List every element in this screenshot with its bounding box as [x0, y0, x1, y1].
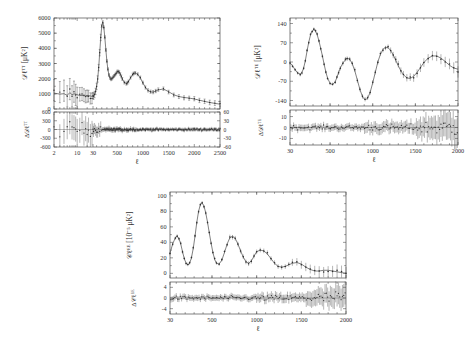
ee-main-frame — [170, 192, 346, 278]
chart-panel-te: -140-7007014030500100015002000-10010𝒟ℓᵀᴱ… — [246, 6, 468, 171]
tt-residual-ylabel: Δ𝒟ℓᵀᵀ — [23, 120, 30, 138]
axis-text: 300 — [42, 118, 51, 124]
axis-text: -600 — [40, 144, 50, 150]
te-xlabel: ℓ — [372, 155, 376, 164]
axis-text: -70 — [278, 77, 286, 84]
chart-panel-ee: 02040608010030500100015002000-404𝒞ℓᴱᴱ [1… — [118, 182, 358, 342]
axis-text: 140 — [277, 20, 286, 27]
axis-text: 60 — [160, 223, 166, 230]
axis-text: 30 — [90, 149, 96, 156]
axis-text: 2 — [52, 149, 55, 156]
axis-text: 2000 — [38, 75, 50, 82]
axis-text: -140 — [275, 97, 286, 104]
tt-xlabel: ℓ — [135, 157, 139, 166]
axis-text: 0 — [284, 125, 287, 131]
te-ylabel: 𝒟ℓᵀᴱ [μK²] — [253, 45, 262, 78]
axis-text: 2000 — [452, 147, 464, 154]
axis-text: -60 — [224, 144, 232, 150]
axis-text: 0 — [224, 127, 227, 133]
axis-text: 1000 — [38, 90, 50, 97]
ee-spectrum-svg: 02040608010030500100015002000-404𝒞ℓᴱᴱ [1… — [118, 182, 358, 342]
axis-text: 0 — [164, 295, 167, 301]
axis-text: 3000 — [38, 60, 50, 67]
ee-residual-points — [170, 281, 345, 311]
te-model-curve — [290, 30, 458, 100]
te-data-points — [289, 27, 459, 101]
axis-text: 20 — [160, 254, 166, 261]
axis-text: 500 — [325, 147, 334, 154]
axis-text: 100 — [157, 192, 166, 199]
axis-text: 30 — [167, 316, 173, 323]
axis-text: 0 — [48, 127, 51, 133]
axis-text: 1000 — [367, 147, 379, 154]
tt-spectrum-svg: 0100020003000400050006000210305001000150… — [14, 6, 232, 171]
axis-text: 1000 — [250, 316, 262, 323]
ee-model-curve — [170, 203, 346, 274]
axis-text: -300 — [40, 135, 50, 141]
axis-text: 4 — [164, 284, 167, 290]
axis-text: 1500 — [162, 149, 174, 156]
axis-text: -4 — [162, 306, 167, 312]
axis-text: 5000 — [38, 29, 50, 36]
te-spectrum-svg: -140-7007014030500100015002000-10010𝒟ℓᵀᴱ… — [246, 6, 468, 171]
tt-model-curve — [54, 22, 220, 104]
axis-text: 500 — [207, 316, 216, 323]
axis-text: 6000 — [38, 14, 50, 21]
tt-ylabel: 𝒟ℓᵀᵀ [μK²] — [20, 47, 29, 80]
axis-text: 0 — [163, 269, 166, 276]
axis-text: 4000 — [38, 44, 50, 51]
axis-text: 10 — [281, 114, 287, 120]
axis-text: -10 — [279, 135, 287, 141]
axis-text: 2000 — [188, 149, 200, 156]
axis-text: 600 — [42, 109, 51, 115]
axis-text: 1500 — [409, 147, 421, 154]
axis-text: 1000 — [137, 149, 149, 156]
axis-text: 10 — [74, 149, 80, 156]
axis-text: 0 — [283, 58, 286, 65]
ee-xlabel: ℓ — [256, 324, 260, 333]
te-residual-points — [290, 110, 458, 150]
ee-data-points — [169, 201, 347, 279]
axis-text: 2000 — [340, 316, 352, 323]
te-residual-ylabel: Δ𝒟ℓᵀᴱ — [257, 118, 264, 136]
axis-text: 70 — [280, 39, 286, 46]
axis-text: 60 — [224, 109, 230, 115]
ee-ylabel: 𝒞ℓᴱᴱ [10⁻⁵ μK²] — [125, 211, 134, 258]
chart-panel-tt: 0100020003000400050006000210305001000150… — [14, 6, 232, 171]
axis-text: 500 — [113, 149, 122, 156]
ee-residual-ylabel: Δ𝒞ℓᴱᴱ — [130, 289, 137, 307]
axis-text: 30 — [287, 147, 293, 154]
axis-text: 30 — [224, 118, 230, 124]
axis-text: -30 — [224, 135, 232, 141]
axis-text: 80 — [160, 207, 166, 214]
axis-text: 1500 — [295, 316, 307, 323]
axis-text: 40 — [160, 238, 166, 245]
